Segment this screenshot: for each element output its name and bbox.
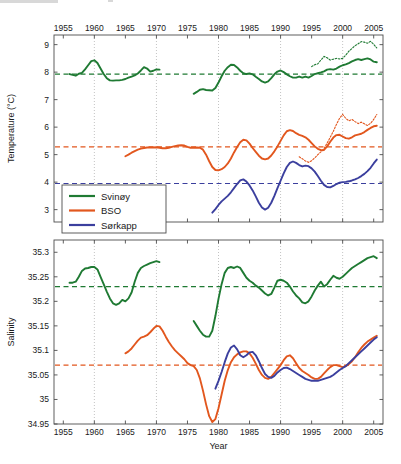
ytick-label-2: 35.05 — [28, 370, 50, 380]
xtick-label-2005: 2005 — [364, 427, 383, 437]
xtick-label-2005: 2005 — [364, 23, 383, 33]
figure-background — [0, 0, 401, 464]
ytick-label-1: 4 — [44, 177, 49, 187]
legend-label-bso: BSO — [101, 205, 121, 216]
legend-label-svin-y: Svinøy — [101, 191, 130, 202]
xtick-label-1960: 1960 — [85, 427, 104, 437]
xtick-label-1955: 1955 — [54, 23, 73, 33]
xtick-label-1995: 1995 — [302, 23, 321, 33]
xtick-label-2000: 2000 — [333, 23, 352, 33]
ytick-label-6: 9 — [44, 40, 49, 50]
xtick-label-1960: 1960 — [85, 23, 104, 33]
ytick-label-1: 35 — [40, 394, 50, 404]
xtick-label-1970: 1970 — [147, 23, 166, 33]
ytick-label-3: 35.1 — [32, 345, 49, 355]
top-edge-artifact — [0, 0, 58, 3]
ytick-label-4: 7 — [44, 95, 49, 105]
xtick-label-1980: 1980 — [209, 23, 228, 33]
ytick-label-3: 6 — [44, 122, 49, 132]
chart-legend: SvinøyBSOSørkapp — [62, 185, 166, 233]
xtick-label-1995: 1995 — [302, 427, 321, 437]
xtick-label-1975: 1975 — [178, 23, 197, 33]
ytick-label-2: 5 — [44, 150, 49, 160]
xtick-label-1965: 1965 — [116, 427, 135, 437]
xtick-label-1980: 1980 — [209, 427, 228, 437]
xtick-label-1975: 1975 — [178, 427, 197, 437]
x-axis-title: Year — [209, 441, 227, 451]
xtick-label-1970: 1970 — [147, 427, 166, 437]
ytick-label-5: 35.2 — [32, 296, 49, 306]
y-axis-title: Salinity — [6, 317, 16, 347]
xtick-label-1990: 1990 — [271, 427, 290, 437]
y-axis-title: Temperature (°C) — [6, 94, 16, 163]
legend-label-s-rkapp: Sørkapp — [101, 220, 137, 231]
xtick-label-1955: 1955 — [54, 427, 73, 437]
ytick-label-6: 35.25 — [28, 272, 50, 282]
top-edge-artifact-dot — [108, 0, 113, 2]
xtick-label-1985: 1985 — [240, 23, 259, 33]
xtick-label-1965: 1965 — [116, 23, 135, 33]
xtick-label-2000: 2000 — [333, 427, 352, 437]
ytick-label-0: 3 — [44, 205, 49, 215]
xtick-label-1990: 1990 — [271, 23, 290, 33]
ytick-label-0: 34.95 — [28, 419, 50, 429]
ytick-label-5: 8 — [44, 67, 49, 77]
ytick-label-4: 35.15 — [28, 321, 50, 331]
ocean-timeseries-figure: 1955196019651970197519801985199019952000… — [0, 0, 401, 464]
xtick-label-1985: 1985 — [240, 427, 259, 437]
ytick-label-7: 35.3 — [32, 247, 49, 257]
